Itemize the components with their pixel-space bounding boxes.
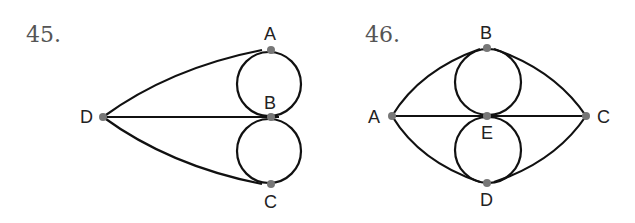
figure-number: 45. [26,22,61,47]
figure-number: 46. [365,22,400,47]
vertex-d [99,113,107,121]
vertex-b [483,44,491,52]
vertex-label-a: A [264,24,276,44]
vertex-label-d: D [80,107,93,127]
vertex-label-e: E [481,123,493,143]
vertex-e [483,112,491,120]
vertex-label-b: B [480,23,492,43]
vertex-label-c: C [264,192,277,212]
edge-d-c [103,117,262,184]
figure-46: 46. A B C D E [365,22,610,210]
edge-d-c [494,116,586,182]
vertex-c [267,180,275,188]
vertex-d [483,179,491,187]
vertex-c [582,112,590,120]
edge-b-c-circle [237,119,301,183]
edge-d-a [103,50,262,117]
vertex-label-a: A [368,107,380,127]
vertex-a [388,112,396,120]
graph-figures: 45. A B C D 46. A B C D E [0,0,635,223]
vertex-b [267,113,275,121]
vertex-a [267,46,275,54]
vertex-label-c: C [597,107,610,127]
vertex-label-d: D [480,190,493,210]
edge-b-c [494,49,586,116]
edge-b-e-circle [455,49,521,115]
figure-45: 45. A B C D [26,22,301,212]
vertex-label-b: B [264,93,276,113]
